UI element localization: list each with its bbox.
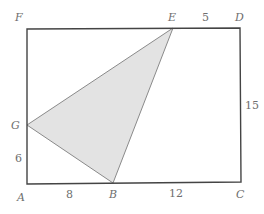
point-label-g: G (11, 119, 20, 132)
measure-ed: 5 (202, 11, 209, 24)
point-label-d: D (234, 11, 244, 24)
measure-bc: 12 (169, 187, 183, 200)
measure-ag: 6 (15, 152, 22, 165)
point-label-b: B (108, 188, 117, 201)
shaded-triangle-gbe (27, 28, 173, 183)
point-label-f: F (14, 11, 23, 24)
point-label-c: C (236, 188, 245, 201)
measure-ab: 8 (66, 188, 73, 201)
geometry-diagram: F E D G A B C 5 15 6 8 12 (0, 0, 264, 214)
point-label-e: E (167, 11, 176, 24)
point-label-a: A (16, 191, 25, 204)
measure-dc: 15 (245, 99, 259, 112)
